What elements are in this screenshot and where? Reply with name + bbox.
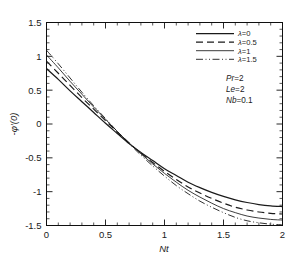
- y-tick-label: 1.5: [28, 17, 41, 28]
- annotation-0: Pr=2: [226, 74, 244, 83]
- x-tick-label: 0: [44, 229, 49, 240]
- curve-series-1: [47, 61, 283, 214]
- curve-series-3: [47, 50, 283, 225]
- x-axis-label: Nt: [159, 243, 169, 254]
- curve-series-2: [47, 55, 283, 220]
- legend-label-3: λ=1.5: [237, 55, 257, 64]
- y-tick-label: -0.5: [25, 152, 41, 163]
- y-axis-tick-labels: -1.5-1-0.500.511.5: [25, 17, 41, 231]
- chart-figure: 00.511.52 -1.5-1-0.500.511.5 Nt -φ′(0) λ…: [0, 0, 308, 268]
- x-tick-label: 1.5: [217, 229, 230, 240]
- y-axis-label: -φ′(0): [8, 113, 19, 136]
- plot-canvas: 00.511.52 -1.5-1-0.500.511.5 Nt -φ′(0) λ…: [0, 0, 308, 268]
- y-tick-label: -1.5: [25, 220, 41, 231]
- y-tick-label: 1: [36, 51, 41, 62]
- x-tick-label: 1: [162, 229, 167, 240]
- data-curves: [47, 50, 283, 225]
- x-tick-label: 0.5: [99, 229, 112, 240]
- legend: λ=0λ=0.5λ=1λ=1.5: [196, 29, 257, 64]
- curve-series-0: [47, 69, 283, 207]
- annotation-1: Le=2: [226, 85, 245, 94]
- parameter-annotations: Pr=2Le=2Nb=0.1: [226, 74, 253, 105]
- y-tick-label: 0: [36, 118, 41, 129]
- y-tick-label: -1: [33, 186, 41, 197]
- x-tick-label: 2: [280, 229, 285, 240]
- annotation-2: Nb=0.1: [226, 96, 253, 105]
- y-tick-label: 0.5: [28, 85, 41, 96]
- x-axis-tick-labels: 00.511.52: [44, 229, 285, 240]
